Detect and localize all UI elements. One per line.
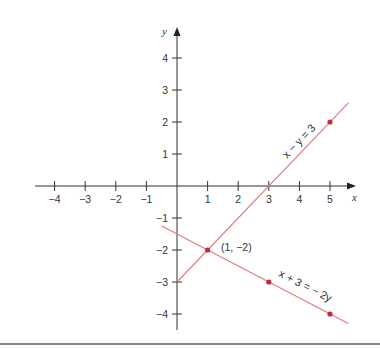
data-point — [266, 279, 271, 284]
y-tick-label: 3 — [162, 84, 168, 96]
bottom-divider — [0, 343, 380, 345]
data-point — [327, 311, 332, 316]
y-tick-label: −2 — [156, 244, 168, 256]
x-ticks: −4−3−2−112345 — [49, 181, 333, 205]
y-axis-arrow-icon — [174, 27, 181, 36]
equation-labels: x − y = 3 x + 3 = − 2y (1, −2) — [221, 122, 334, 305]
y-tick-label: 4 — [162, 52, 168, 64]
y-axis-label: y — [161, 25, 167, 37]
x-tick-label: 4 — [296, 193, 302, 205]
x-axis-label: x — [351, 191, 357, 203]
data-point — [327, 119, 332, 124]
x-tick-label: −1 — [140, 193, 152, 205]
x-tick-label: 5 — [327, 193, 333, 205]
x-tick-label: 2 — [235, 193, 241, 205]
data-point — [205, 247, 210, 252]
y-tick-label: 2 — [162, 116, 168, 128]
x-tick-label: −4 — [49, 193, 61, 205]
x-tick-label: 1 — [205, 193, 211, 205]
line-x-minus-y — [177, 103, 348, 282]
x-tick-label: −2 — [110, 193, 122, 205]
equation-label-x-plus-3: x + 3 = − 2y — [277, 267, 334, 304]
intersection-label: (1, −2) — [221, 241, 252, 253]
x-tick-label: −3 — [79, 193, 91, 205]
y-tick-label: −4 — [156, 308, 168, 320]
y-tick-label: −1 — [156, 212, 168, 224]
y-tick-label: 1 — [162, 148, 168, 160]
coordinate-graph: x y −4−3−2−112345 4321−1−2−3−4 x − y = 3… — [0, 0, 380, 349]
x-axis-arrow-icon — [347, 183, 356, 190]
y-tick-label: −3 — [156, 276, 168, 288]
x-tick-label: 3 — [266, 193, 272, 205]
line-x-plus-3 — [162, 226, 349, 324]
